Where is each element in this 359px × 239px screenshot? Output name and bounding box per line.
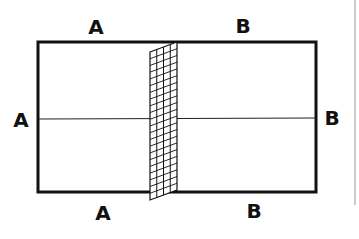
label-right-b: B xyxy=(324,108,339,128)
label-bottom-a: A xyxy=(95,203,110,223)
court-diagram: A B A B A B xyxy=(0,0,359,239)
label-top-a: A xyxy=(88,17,103,37)
label-left-a: A xyxy=(13,110,28,130)
label-bottom-b: B xyxy=(246,201,261,221)
net xyxy=(150,42,177,200)
court-svg xyxy=(0,0,359,239)
label-top-b: B xyxy=(235,16,250,36)
